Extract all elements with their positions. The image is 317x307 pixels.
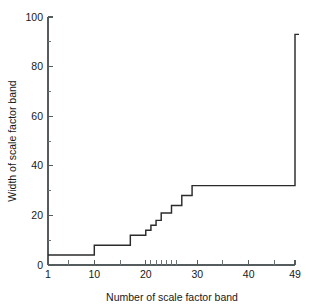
x-tick-label: 10: [88, 268, 100, 280]
chart-axes: [48, 17, 295, 265]
step-line: [48, 34, 299, 255]
y-tick-label: 40: [31, 159, 43, 171]
axis-tick-labels: 02040608010011020304049: [25, 11, 301, 280]
y-tick-label: 0: [37, 259, 43, 271]
x-tick-label: 30: [191, 268, 203, 280]
x-axis-title: Number of scale factor band: [106, 291, 238, 303]
x-tick-label: 20: [140, 268, 152, 280]
x-tick-label: 49: [289, 268, 301, 280]
x-tick-label: 40: [243, 268, 255, 280]
chart-canvas: 02040608010011020304049 Width of scale f…: [0, 0, 317, 307]
y-tick-label: 100: [25, 11, 43, 23]
step-chart: 02040608010011020304049 Width of scale f…: [0, 0, 317, 307]
data-series-group: [48, 34, 299, 255]
y-tick-label: 60: [31, 110, 43, 122]
x-tick-label: 1: [45, 268, 51, 280]
y-tick-label: 20: [31, 209, 43, 221]
axis-ticks: [48, 17, 295, 265]
y-axis-title: Width of scale factor band: [6, 80, 18, 202]
y-tick-label: 80: [31, 60, 43, 72]
